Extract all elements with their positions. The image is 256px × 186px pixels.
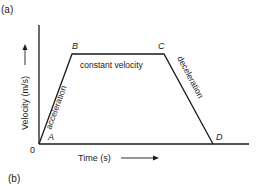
segment-label-deceleration: deceleration bbox=[175, 54, 206, 100]
point-label-a: A bbox=[47, 132, 54, 142]
point-label-c: C bbox=[158, 41, 165, 51]
segment-label-acceleration: acceleration bbox=[43, 84, 68, 131]
x-axis-arrow-icon bbox=[153, 156, 159, 161]
panel-label-a: (a) bbox=[1, 4, 13, 15]
panel-label-b: (b) bbox=[8, 173, 20, 184]
point-label-b: B bbox=[72, 41, 78, 51]
velocity-time-diagram: (a) (b) 0 Velocity (m/s) Time (s) A B C … bbox=[0, 0, 256, 186]
point-label-d: D bbox=[216, 132, 223, 142]
x-axis-label: Time (s) bbox=[78, 153, 111, 163]
y-axis-arrow-icon bbox=[23, 44, 28, 50]
segment-label-constant-velocity: constant velocity bbox=[80, 60, 144, 70]
y-axis-label-group: Velocity (m/s) bbox=[20, 44, 30, 130]
y-axis-label: Velocity (m/s) bbox=[20, 76, 30, 130]
origin-label: 0 bbox=[30, 145, 35, 155]
